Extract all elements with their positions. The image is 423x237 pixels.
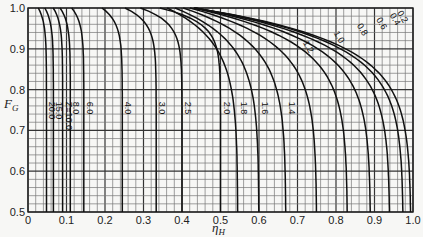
y-tick-label: 1.0 [10,2,25,14]
x-tick-label: 0.7 [290,214,305,226]
y-tick-label: 0.8 [10,84,25,96]
x-tick-label: 0 [25,214,31,226]
curve-label: 6.0 [85,102,95,115]
y-axis-label: FG [3,96,19,113]
x-tick-label: 0.1 [59,214,74,226]
y-tick-label: 0.9 [10,43,25,55]
curve-labels: 20.015.0Z=10.08.06.04.03.02.52.01.81.61.… [47,9,410,130]
curve-label: 0.6 [374,15,389,31]
correction-factor-chart: 20.015.0Z=10.08.06.04.03.02.52.01.81.61.… [0,0,423,237]
curve-label: 4.0 [123,102,133,115]
curve-label: 8.0 [71,102,81,115]
curve-label: 3.0 [157,102,167,115]
curve-label: 1.0 [332,29,347,45]
x-tick-label: 0.3 [136,214,151,226]
y-tick-label: 0.5 [10,206,25,218]
x-tick-label: 0.6 [251,214,266,226]
curve-z-20.0 [38,8,46,212]
curve-label: 1.4 [287,102,297,115]
curve-label: 2.5 [183,102,193,115]
curve-label: 1.8 [239,102,249,115]
curve-label: 2.0 [222,102,232,115]
curve-label: 0.8 [355,22,370,38]
x-tick-label: 1.0 [405,214,420,226]
y-tick-label: 0.6 [10,165,25,177]
x-tick-label: 0.9 [367,214,382,226]
curve-label: 1.6 [260,102,270,115]
x-tick-label: 0.2 [97,214,112,226]
x-tick-label: 0.4 [174,214,189,226]
y-tick-label: 0.7 [10,124,25,136]
x-tick-label: 0.8 [328,214,343,226]
curve-label: 15.0 [54,102,64,120]
